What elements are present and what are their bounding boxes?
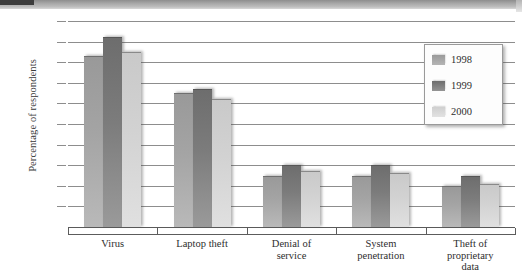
x-category-label-line: Denial of xyxy=(247,238,336,250)
gridline-0 xyxy=(68,227,515,228)
y-tick-dash-60 xyxy=(57,103,66,104)
legend-item-2000[interactable]: 2000 xyxy=(432,106,472,117)
x-tick-4 xyxy=(426,228,427,235)
x-category-label-line: Theft of xyxy=(426,238,515,250)
bar-1998[interactable] xyxy=(442,186,461,227)
y-tick-dash-90 xyxy=(57,42,66,43)
bar-1999[interactable] xyxy=(371,165,390,227)
legend-swatch-icon-1999 xyxy=(432,81,445,91)
x-tick-2 xyxy=(247,228,248,235)
y-axis-title: Percentage of respondents xyxy=(27,26,38,206)
x-category-label-line: penetration xyxy=(336,250,425,262)
bar-2000[interactable] xyxy=(480,184,499,227)
legend-swatch-icon-2000 xyxy=(432,107,445,117)
bar-1998[interactable] xyxy=(174,93,193,227)
bar-1999[interactable] xyxy=(282,165,301,227)
x-category-label-line: data xyxy=(426,261,515,273)
x-tick-5 xyxy=(515,228,516,235)
bar-group xyxy=(247,21,336,227)
y-tick-dash-50 xyxy=(57,124,66,125)
x-category-label: Systempenetration xyxy=(336,238,425,261)
y-tick-dash-80 xyxy=(57,62,66,63)
bar-group xyxy=(336,21,425,227)
bar-1999[interactable] xyxy=(461,176,480,228)
x-category-label: Laptop theft xyxy=(157,238,246,250)
bar-2000[interactable] xyxy=(390,173,409,227)
x-category-label-line: Virus xyxy=(68,238,157,250)
bar-group xyxy=(157,21,246,227)
y-tick-dash-100 xyxy=(57,21,66,22)
bar-1999[interactable] xyxy=(193,89,212,227)
x-category-label-line: Laptop theft xyxy=(157,238,246,250)
bar-1998[interactable] xyxy=(84,56,103,227)
y-tick-dash-40 xyxy=(57,145,66,146)
legend-label: 1998 xyxy=(451,54,472,65)
y-tick-dash-20 xyxy=(57,186,66,187)
x-category-label-line: proprietary xyxy=(426,250,515,262)
bar-2000[interactable] xyxy=(122,52,141,227)
x-category-label: Virus xyxy=(68,238,157,250)
x-category-label: Theft ofproprietarydata xyxy=(426,238,515,273)
bar-1998[interactable] xyxy=(263,176,282,228)
legend-item-1998[interactable]: 1998 xyxy=(432,54,472,65)
legend-label: 2000 xyxy=(451,106,472,117)
x-tick-3 xyxy=(336,228,337,235)
bar-group xyxy=(68,21,157,227)
x-category-label-line: service xyxy=(247,250,336,262)
x-tick-0 xyxy=(68,228,69,235)
y-tick-dash-70 xyxy=(57,83,66,84)
bar-1998[interactable] xyxy=(352,176,371,228)
y-tick-dash-10 xyxy=(57,206,66,207)
legend-item-1999[interactable]: 1999 xyxy=(432,80,472,91)
legend-label: 1999 xyxy=(451,80,472,91)
bar-1999[interactable] xyxy=(103,37,122,227)
x-axis-line xyxy=(68,234,515,235)
x-category-label: Denial ofservice xyxy=(247,238,336,261)
x-category-label-line: System xyxy=(336,238,425,250)
bar-chart: Percentage of respondents 100%90%80%70%6… xyxy=(0,0,522,277)
bar-2000[interactable] xyxy=(212,99,231,227)
legend-swatch-icon-1998 xyxy=(432,55,445,65)
x-tick-1 xyxy=(157,228,158,235)
y-tick-dash-30 xyxy=(57,165,66,166)
bar-2000[interactable] xyxy=(301,171,320,227)
chart-legend[interactable]: 199819992000 xyxy=(424,44,503,125)
